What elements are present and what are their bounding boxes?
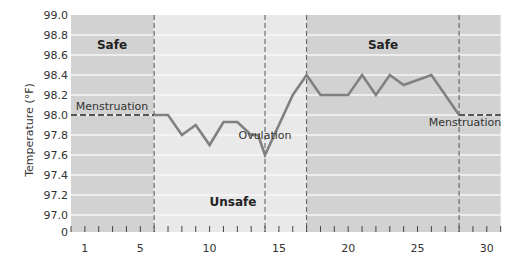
x-tick-label: 30 — [480, 242, 494, 255]
y-tick-label: 98.0 — [44, 109, 69, 122]
zone-label-unsafe: Unsafe — [210, 195, 257, 209]
x-tick-label: 10 — [203, 242, 217, 255]
y-tick-label: 97.6 — [44, 149, 69, 162]
annotation-menstruation-start: Menstruation — [76, 100, 149, 113]
y-tick-label: 97.4 — [44, 169, 69, 182]
y-axis: 097.097.297.497.697.898.098.298.498.698.… — [44, 9, 69, 239]
y-tick-label: 98.8 — [44, 29, 69, 42]
y-axis-title: Temperature (°F) — [23, 83, 36, 178]
zone-label-safe-right: Safe — [368, 38, 398, 52]
x-tick-label: 1 — [81, 242, 88, 255]
y-tick-label: 97.8 — [44, 129, 69, 142]
y-tick-label: 0 — [61, 226, 68, 239]
annotation-menstruation-end: Menstruation — [429, 116, 502, 129]
y-tick-label: 99.0 — [44, 9, 69, 22]
annotation-ovulation: Ovulation — [238, 129, 291, 142]
y-tick-label: 98.6 — [44, 49, 69, 62]
x-tick-label: 25 — [411, 242, 425, 255]
x-tick-label: 15 — [272, 242, 286, 255]
zone-label-safe-left: Safe — [97, 38, 127, 52]
y-tick-label: 98.2 — [44, 89, 69, 102]
y-tick-label: 97.2 — [44, 189, 69, 202]
x-tick-label: 20 — [341, 242, 355, 255]
x-tick-label: 5 — [137, 242, 144, 255]
y-tick-label: 98.4 — [44, 69, 69, 82]
bbt-chart: 151015202530 097.097.297.497.697.898.098… — [0, 0, 521, 280]
y-tick-label: 97.0 — [44, 209, 69, 222]
